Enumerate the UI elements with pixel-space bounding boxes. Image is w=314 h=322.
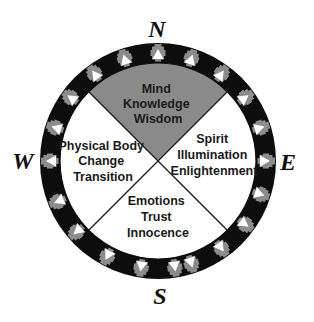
quadrant-west-line-2: Change — [78, 154, 124, 168]
ring-motif-icon — [41, 154, 59, 169]
medicine-wheel-diagram: Mind Knowledge Wisdom Spirit Illuminatio… — [0, 0, 314, 322]
quadrant-east-line-3: Enlightenment — [171, 164, 259, 178]
quadrant-north-line-1: Mind — [142, 82, 171, 96]
quadrant-east-line-2: Illumination — [177, 148, 247, 162]
ring-motif-icon — [151, 44, 166, 62]
quadrant-west-line-1: Physical Body — [59, 139, 144, 153]
quadrant-north-line-3: Wisdom — [134, 112, 183, 126]
quadrant-east-line-1: Spirit — [196, 132, 229, 146]
quadrant-south-line-2: Trust — [141, 210, 172, 224]
quadrant-north-line-2: Knowledge — [123, 97, 190, 111]
direction-label-west: W — [12, 148, 35, 174]
direction-label-east: E — [279, 149, 296, 175]
ring-motif-icon — [258, 154, 276, 169]
direction-label-north: N — [147, 16, 167, 42]
quadrant-south-line-1: Emotions — [128, 194, 185, 208]
direction-label-south: S — [153, 283, 166, 309]
quadrant-south-line-3: Innocence — [127, 226, 189, 240]
quadrant-west-line-3: Transition — [73, 170, 133, 184]
